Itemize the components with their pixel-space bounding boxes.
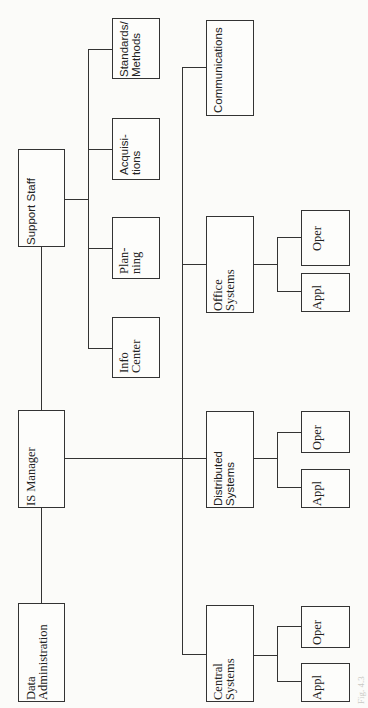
label-acquisitions: Acquisi- tions bbox=[118, 134, 122, 175]
box-office-appl: Appl bbox=[301, 273, 350, 312]
central-sub-stem bbox=[254, 655, 277, 656]
box-distributed-appl: Appl bbox=[301, 469, 350, 508]
distributed-sub-stem bbox=[254, 458, 277, 459]
label-communications: Communications bbox=[212, 27, 214, 113]
caption-text: Fig. 4.3 bbox=[356, 676, 366, 704]
connector-office bbox=[182, 264, 206, 265]
connector-distributed bbox=[182, 458, 206, 459]
office-sub-bus bbox=[277, 237, 278, 292]
connector-standards bbox=[88, 49, 112, 50]
box-info-center: Info Center bbox=[112, 317, 160, 378]
label-central-appl: Appl bbox=[311, 675, 312, 700]
label-office-appl: Appl bbox=[311, 285, 312, 310]
figure-caption-partial: Fig. 4.3 bbox=[356, 676, 366, 704]
box-planning: Plan- ning bbox=[112, 217, 160, 279]
box-office-oper: Oper bbox=[301, 210, 350, 266]
box-distributed-systems: Distributed Systems bbox=[206, 411, 254, 508]
connector-planning bbox=[88, 248, 112, 249]
box-communications: Communications bbox=[206, 20, 254, 116]
label-is-manager: IS Manager bbox=[25, 447, 26, 506]
label-planning: Plan- ning bbox=[118, 248, 122, 274]
central-oper-connector bbox=[277, 626, 301, 627]
connector-is-manager bbox=[65, 458, 182, 459]
label-distributed-oper: Oper bbox=[311, 425, 313, 450]
label-distributed-appl: Appl bbox=[311, 481, 312, 506]
label-info-center: Info Center bbox=[118, 340, 122, 373]
connector-support-staff bbox=[65, 199, 89, 200]
systems-bus bbox=[182, 67, 183, 655]
box-office-systems: Office Systems bbox=[206, 216, 254, 313]
label-data-administration: Data Administration bbox=[25, 624, 26, 700]
box-distributed-oper: Oper bbox=[301, 411, 350, 453]
box-is-manager: IS Manager bbox=[18, 410, 65, 508]
box-standards-methods: Standards/ Methods bbox=[112, 18, 160, 79]
distributed-sub-bus bbox=[277, 432, 278, 488]
label-central-systems: Central Systems bbox=[212, 658, 213, 700]
central-sub-bus bbox=[277, 626, 278, 682]
office-appl-connector bbox=[277, 291, 301, 292]
label-central-oper: Oper bbox=[311, 620, 313, 645]
connector-acquisitions bbox=[88, 149, 112, 150]
label-support-staff: Support Staff bbox=[25, 178, 26, 245]
central-appl-connector bbox=[277, 681, 301, 682]
box-central-oper: Oper bbox=[301, 606, 350, 648]
box-central-appl: Appl bbox=[301, 663, 350, 702]
office-oper-connector bbox=[277, 237, 301, 238]
box-data-administration: Data Administration bbox=[18, 603, 65, 702]
label-standards-methods: Standards/ Methods bbox=[118, 21, 119, 77]
distributed-appl-connector bbox=[277, 487, 301, 488]
box-central-systems: Central Systems bbox=[206, 605, 254, 702]
label-office-systems: Office Systems bbox=[212, 269, 213, 311]
distributed-oper-connector bbox=[277, 432, 301, 433]
support-staff-bus bbox=[88, 49, 89, 348]
connector-communications bbox=[182, 67, 206, 68]
label-distributed-systems: Distributed Systems bbox=[212, 451, 213, 506]
office-sub-stem bbox=[254, 264, 277, 265]
connector-info-center bbox=[88, 348, 112, 349]
box-acquisitions: Acquisi- tions bbox=[112, 118, 160, 180]
label-office-oper: Oper bbox=[311, 226, 325, 251]
box-support-staff: Support Staff bbox=[18, 149, 65, 247]
connector-central bbox=[182, 654, 206, 655]
